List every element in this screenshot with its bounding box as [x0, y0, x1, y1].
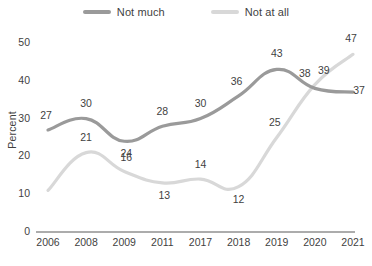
data-point-label: 25: [264, 116, 286, 128]
data-point-label: 36: [226, 75, 248, 87]
data-point-label: 30: [75, 97, 97, 109]
data-point-label: 37: [348, 84, 370, 96]
data-point-label: 47: [340, 32, 362, 44]
series-lines: [0, 0, 372, 266]
data-point-label: 13: [153, 189, 175, 201]
data-point-label: 12: [228, 193, 250, 205]
data-point-label: 39: [313, 64, 335, 76]
data-point-label: 21: [75, 131, 97, 143]
data-point-label: 30: [190, 97, 212, 109]
data-point-label: 28: [151, 105, 173, 117]
line-chart: Not much Not at all Percent 01020304050 …: [0, 0, 372, 266]
plot-area: Percent 01020304050 20062008200920112017…: [0, 0, 372, 266]
data-point-label: 16: [115, 151, 137, 163]
data-point-label: 14: [190, 158, 212, 170]
data-point-label: 27: [35, 109, 57, 121]
data-point-label: 43: [266, 47, 288, 59]
